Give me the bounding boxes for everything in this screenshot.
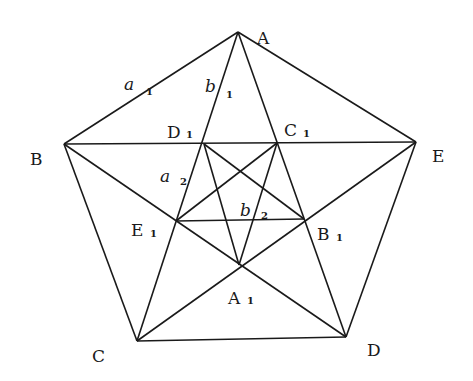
segment-label-b1-sub: 1 (226, 89, 233, 100)
label-D1-sub: 1 (186, 129, 193, 140)
segment-label-b1: b (205, 76, 216, 96)
label-B1-sub: 1 (336, 232, 343, 243)
segment-label-b2: b (240, 200, 251, 220)
segment-label-a2-sub: 2 (180, 176, 187, 187)
segment-label-a1-sub: 1 (146, 86, 153, 97)
segment-label-a1: a (124, 74, 134, 94)
label-E: E (432, 146, 444, 166)
label-A1: A (227, 288, 241, 308)
label-E1: E (131, 220, 143, 240)
label-D1: D (167, 122, 181, 142)
label-C: C (92, 346, 105, 366)
label-A1-sub: 1 (247, 295, 254, 306)
edge-CD (137, 337, 346, 341)
segment-label-b2-sub: 2 (261, 210, 268, 221)
diagonal-BD (64, 144, 346, 337)
label-C1-sub: 1 (303, 128, 310, 139)
label-A: A (256, 28, 270, 48)
diagonal-D1B1 (204, 144, 304, 219)
edge-BC (64, 144, 137, 341)
label-B1: B (317, 224, 330, 244)
edge-DE (346, 142, 416, 337)
label-E1-sub: 1 (150, 228, 157, 239)
label-D: D (367, 340, 381, 360)
label-C1: C (284, 120, 297, 140)
segment-label-a2: a (160, 166, 170, 186)
diagonal-CE (137, 142, 416, 341)
pentagon-diagram: A B C D E D 1 C 1 E 1 B 1 A 1 a 1 b 1 a … (0, 0, 473, 381)
diagonal-AD (238, 32, 346, 337)
diagonal-D1A1 (204, 144, 239, 265)
edge-EA (238, 32, 416, 142)
diagonal-AC (137, 32, 238, 341)
label-B: B (30, 149, 43, 169)
diagonal-BE (64, 142, 416, 144)
